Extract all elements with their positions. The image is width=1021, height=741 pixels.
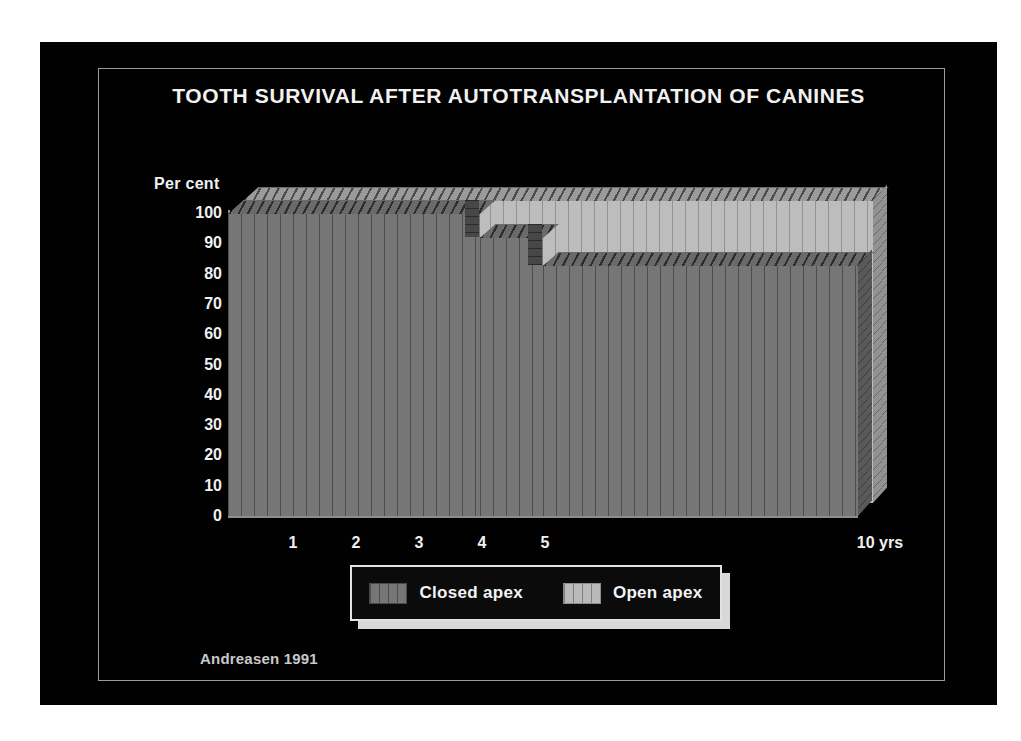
closed-apex-swatch — [369, 583, 407, 604]
legend-entry-open-apex: Open apex — [563, 583, 703, 604]
open-apex-swatch — [563, 583, 601, 604]
legend-entry-closed-apex: Closed apex — [369, 583, 522, 604]
legend-label-open-apex: Open apex — [613, 583, 703, 603]
x-axis-tick-4: 4 — [478, 534, 487, 552]
source-credit: Andreasen 1991 — [200, 650, 318, 667]
x-axis-tick-2: 2 — [352, 534, 361, 552]
legend-label-closed-apex: Closed apex — [419, 583, 522, 603]
x-axis-tick-10-yrs: 10 yrs — [857, 534, 903, 552]
slide-page: TOOTH SURVIVAL AFTER AUTOTRANSPLANTATION… — [0, 0, 1021, 741]
slide-canvas: TOOTH SURVIVAL AFTER AUTOTRANSPLANTATION… — [40, 42, 997, 705]
x-axis-tick-5: 5 — [541, 534, 550, 552]
x-axis-tick-1: 1 — [289, 534, 298, 552]
chart-legend: Closed apex Open apex — [350, 565, 722, 621]
x-axis-tick-3: 3 — [415, 534, 424, 552]
